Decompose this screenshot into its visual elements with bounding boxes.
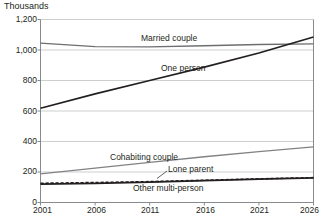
- x-tick-label: 2026: [300, 205, 319, 215]
- x-tick-label: 2001: [33, 205, 52, 215]
- series-label-one-person: One person: [161, 63, 205, 73]
- series-label-cohabiting-couple: Cohabiting couple: [110, 152, 178, 162]
- series-label-other-multi-person: Other multi-person: [133, 183, 203, 193]
- series-lines: [41, 37, 314, 184]
- line-chart: Thousands 1,200 1,000 800 600 400 200 0 …: [0, 0, 326, 224]
- axis-lines: [38, 20, 314, 206]
- x-tick-label: 2021: [250, 205, 269, 215]
- x-tick-label: 2011: [141, 205, 159, 215]
- series-label-lone-parent: Lone parent: [168, 164, 213, 174]
- x-tick-label: 2016: [196, 205, 215, 215]
- x-tick-label: 2006: [87, 205, 106, 215]
- series-label-married-couple: Married couple: [141, 33, 197, 43]
